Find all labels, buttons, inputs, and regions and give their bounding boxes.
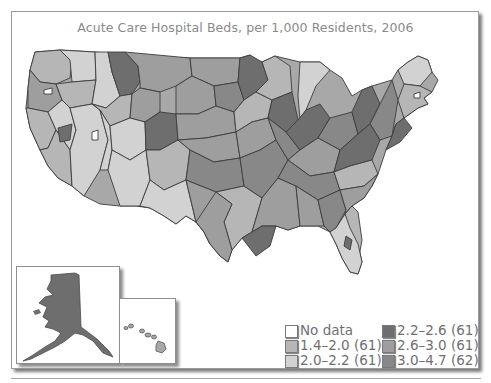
legend-swatch bbox=[285, 340, 298, 353]
alaska-inset bbox=[16, 266, 120, 364]
legend-swatch bbox=[285, 355, 298, 368]
legend-label: 3.0–4.7 (62) bbox=[397, 353, 479, 367]
alaska-shape bbox=[17, 267, 119, 363]
legend-swatch bbox=[382, 325, 395, 338]
legend-label: 2.2–2.6 (61) bbox=[397, 323, 479, 337]
hawaii-inset bbox=[119, 298, 176, 364]
legend-swatch bbox=[285, 325, 298, 338]
hawaii-shape bbox=[120, 299, 175, 363]
legend-label: 2.0–2.2 (61) bbox=[300, 353, 382, 367]
legend-label: 1.4–2.0 (61) bbox=[300, 338, 382, 352]
bottom-rule bbox=[11, 378, 481, 379]
legend-label: No data bbox=[300, 323, 353, 337]
legend-swatch bbox=[382, 340, 395, 353]
legend-label: 2.6–3.0 (61) bbox=[397, 338, 479, 352]
legend-swatch bbox=[382, 355, 395, 368]
